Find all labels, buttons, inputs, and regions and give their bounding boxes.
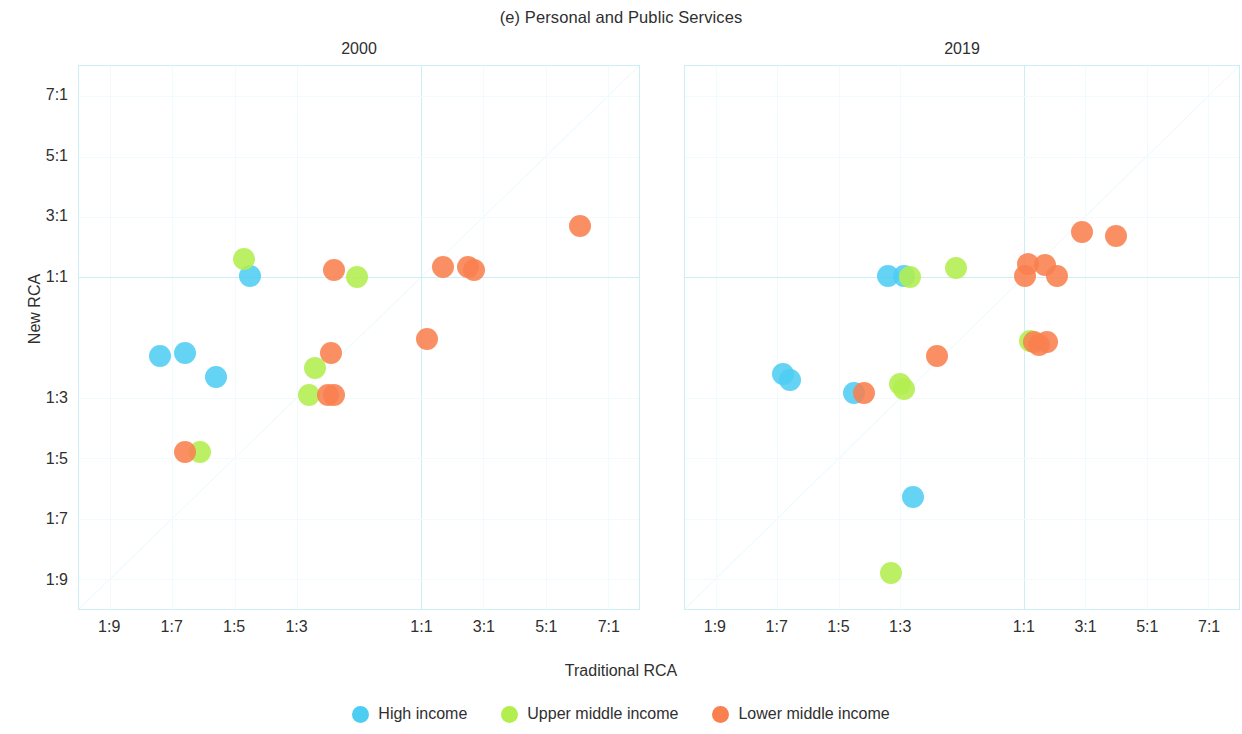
x-tick-label: 1:5: [223, 618, 245, 636]
gridline-vertical: [1147, 66, 1148, 609]
scatter-point[interactable]: [432, 256, 454, 278]
gridline-vertical: [839, 66, 840, 609]
legend-item[interactable]: Upper middle income: [501, 705, 678, 723]
plot-area: [78, 65, 640, 610]
y-tick-label: 1:7: [46, 510, 68, 528]
scatter-point[interactable]: [779, 369, 801, 391]
scatter-point[interactable]: [320, 342, 342, 364]
scatter-point[interactable]: [945, 257, 967, 279]
gridline-horizontal: [79, 398, 639, 399]
scatter-point[interactable]: [1046, 265, 1068, 287]
gridline-horizontal: [79, 96, 639, 97]
x-axis-title: Traditional RCA: [0, 662, 1242, 680]
x-axis-ticks-2000: 1:91:71:51:31:13:15:17:1: [78, 618, 640, 642]
x-tick-label: 7:1: [598, 618, 620, 636]
scatter-point[interactable]: [174, 441, 196, 463]
gridline-vertical: [172, 66, 173, 609]
scatter-point[interactable]: [463, 259, 485, 281]
x-tick-label: 1:1: [1013, 618, 1035, 636]
x-tick-label: 1:7: [766, 618, 788, 636]
legend-item[interactable]: High income: [352, 705, 467, 723]
x-tick-label: 5:1: [535, 618, 557, 636]
legend: High incomeUpper middle incomeLower midd…: [0, 705, 1242, 723]
x-tick-label: 1:5: [827, 618, 849, 636]
y-tick-label: 7:1: [46, 86, 68, 104]
gridline-vertical: [110, 66, 111, 609]
gridline-horizontal: [79, 458, 639, 459]
gridline-horizontal: [685, 217, 1239, 218]
identity-reference-line: [685, 66, 1239, 609]
legend-label: Lower middle income: [738, 705, 889, 723]
scatter-point[interactable]: [205, 366, 227, 388]
scatter-point[interactable]: [902, 486, 924, 508]
x-tick-label: 1:7: [161, 618, 183, 636]
x-tick-label: 3:1: [1074, 618, 1096, 636]
gridline-horizontal: [685, 519, 1239, 520]
y-tick-label: 3:1: [46, 207, 68, 225]
legend-swatch-icon: [712, 706, 729, 723]
legend-swatch-icon: [501, 706, 518, 723]
gridline-horizontal: [685, 277, 1239, 278]
legend-swatch-icon: [352, 706, 369, 723]
x-tick-label: 3:1: [473, 618, 495, 636]
y-tick-label: 1:1: [46, 268, 68, 286]
gridline-horizontal: [79, 157, 639, 158]
scatter-point[interactable]: [323, 384, 345, 406]
gridline-vertical: [546, 66, 547, 609]
figure-container: (e) Personal and Public Services New RCA…: [0, 0, 1242, 734]
scatter-point[interactable]: [149, 345, 171, 367]
gridline-horizontal: [79, 519, 639, 520]
gridline-vertical: [716, 66, 717, 609]
legend-label: High income: [378, 705, 467, 723]
x-tick-label: 1:9: [98, 618, 120, 636]
x-tick-label: 1:3: [889, 618, 911, 636]
gridline-horizontal: [685, 458, 1239, 459]
panel-title: 2000: [78, 40, 640, 58]
scatter-point[interactable]: [416, 328, 438, 350]
scatter-point[interactable]: [1105, 225, 1127, 247]
y-tick-label: 1:9: [46, 571, 68, 589]
scatter-point[interactable]: [880, 562, 902, 584]
legend-label: Upper middle income: [527, 705, 678, 723]
scatter-point[interactable]: [323, 259, 345, 281]
gridline-vertical: [608, 66, 609, 609]
scatter-point[interactable]: [174, 342, 196, 364]
gridline-horizontal: [79, 217, 639, 218]
scatter-point[interactable]: [893, 378, 915, 400]
x-tick-label: 1:9: [704, 618, 726, 636]
y-axis-ticks: 7:15:13:11:11:31:51:71:9: [10, 65, 68, 610]
panel-title: 2019: [684, 40, 1240, 58]
scatter-point[interactable]: [926, 345, 948, 367]
scatter-point[interactable]: [233, 248, 255, 270]
identity-reference-line: [79, 66, 639, 609]
x-tick-label: 1:1: [410, 618, 432, 636]
y-tick-label: 1:5: [46, 450, 68, 468]
legend-item[interactable]: Lower middle income: [712, 705, 889, 723]
scatter-point[interactable]: [1036, 331, 1058, 353]
gridline-vertical: [483, 66, 484, 609]
gridline-vertical: [1085, 66, 1086, 609]
x-tick-label: 5:1: [1136, 618, 1158, 636]
gridline-vertical: [900, 66, 901, 609]
x-axis-ticks-2019: 1:91:71:51:31:13:15:17:1: [684, 618, 1240, 642]
y-tick-label: 1:3: [46, 389, 68, 407]
gridline-horizontal: [685, 398, 1239, 399]
plot-area: [684, 65, 1240, 610]
gridline-vertical: [1208, 66, 1209, 609]
x-tick-label: 7:1: [1198, 618, 1220, 636]
gridline-vertical: [297, 66, 298, 609]
figure-title: (e) Personal and Public Services: [0, 8, 1242, 27]
gridline-horizontal: [79, 579, 639, 580]
x-tick-label: 1:3: [285, 618, 307, 636]
scatter-point[interactable]: [569, 215, 591, 237]
gridline-vertical: [777, 66, 778, 609]
scatter-point[interactable]: [899, 266, 921, 288]
gridline-horizontal: [685, 157, 1239, 158]
gridline-vertical: [235, 66, 236, 609]
scatter-point[interactable]: [346, 266, 368, 288]
scatter-point[interactable]: [853, 382, 875, 404]
gridline-horizontal: [685, 96, 1239, 97]
y-tick-label: 5:1: [46, 147, 68, 165]
gridline-horizontal: [685, 579, 1239, 580]
scatter-point[interactable]: [1071, 221, 1093, 243]
